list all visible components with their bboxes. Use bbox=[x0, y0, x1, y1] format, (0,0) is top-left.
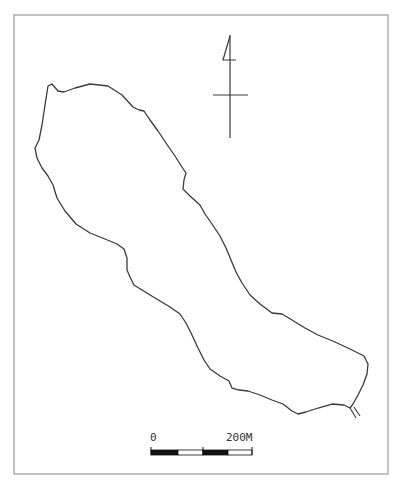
lake-outline bbox=[35, 84, 368, 414]
outlet-stream bbox=[354, 407, 360, 416]
map-frame bbox=[14, 15, 388, 474]
map-canvas: 0 200M bbox=[0, 0, 397, 495]
north-arrow-icon bbox=[213, 35, 248, 138]
scale-label-end: 200M bbox=[226, 431, 253, 444]
scale-segment bbox=[203, 450, 228, 455]
scale-segment bbox=[151, 450, 178, 455]
scale-bar bbox=[151, 447, 252, 455]
scale-segment bbox=[228, 450, 252, 455]
scale-segment bbox=[178, 450, 203, 455]
scale-label-start: 0 bbox=[150, 431, 157, 444]
